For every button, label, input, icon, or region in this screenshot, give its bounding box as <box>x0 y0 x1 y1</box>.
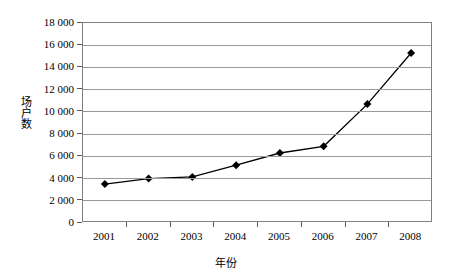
y-tick-mark <box>77 133 82 134</box>
y-tick-label: 14 000 <box>0 61 74 72</box>
x-tick-mark <box>345 222 346 227</box>
x-axis-title: 年份 <box>0 254 452 270</box>
x-tick-label: 2006 <box>312 230 334 242</box>
x-tick-mark <box>388 222 389 227</box>
y-tick-mark <box>77 199 82 200</box>
x-tick-label: 2005 <box>268 230 290 242</box>
y-axis-tick-labels: 02 0004 0006 0008 00010 00012 00014 0001… <box>0 22 74 222</box>
series-line <box>105 53 411 184</box>
data-point-marker <box>101 180 109 188</box>
y-tick-label: 6 000 <box>0 150 74 161</box>
y-tick-mark <box>77 44 82 45</box>
y-tick-mark <box>77 22 82 23</box>
x-tick-mark <box>301 222 302 227</box>
y-tick-label: 18 000 <box>0 17 74 28</box>
x-tick-label: 2007 <box>355 230 377 242</box>
data-point-marker <box>232 161 240 169</box>
y-tick-label: 2 000 <box>0 194 74 205</box>
x-tick-mark <box>257 222 258 227</box>
gridline <box>83 178 431 179</box>
gridline <box>83 45 431 46</box>
gridline <box>83 156 431 157</box>
y-tick-label: 4 000 <box>0 172 74 183</box>
series-line-chart <box>83 23 433 223</box>
x-tick-label: 2003 <box>180 230 202 242</box>
x-tick-label: 2001 <box>93 230 115 242</box>
x-tick-label: 2004 <box>224 230 246 242</box>
data-point-marker <box>188 173 196 181</box>
y-tick-mark <box>77 155 82 156</box>
y-tick-mark <box>77 88 82 89</box>
y-tick-label: 0 <box>0 217 74 228</box>
gridline <box>83 111 431 112</box>
x-tick-mark <box>126 222 127 227</box>
y-tick-label: 8 000 <box>0 128 74 139</box>
x-tick-mark <box>213 222 214 227</box>
y-tick-mark <box>77 66 82 67</box>
x-tick-label: 2008 <box>399 230 421 242</box>
gridline <box>83 89 431 90</box>
gridline <box>83 67 431 68</box>
x-tick-label: 2002 <box>137 230 159 242</box>
y-tick-mark <box>77 177 82 178</box>
plot-area <box>82 22 432 222</box>
y-tick-label: 16 000 <box>0 39 74 50</box>
chart-figure: 场户数 02 0004 0006 0008 00010 00012 00014 … <box>0 0 452 280</box>
y-tick-mark <box>77 110 82 111</box>
y-tick-label: 12 000 <box>0 83 74 94</box>
x-tick-mark <box>170 222 171 227</box>
y-tick-mark <box>77 222 82 223</box>
gridline <box>83 200 431 201</box>
y-tick-label: 10 000 <box>0 105 74 116</box>
gridline <box>83 134 431 135</box>
